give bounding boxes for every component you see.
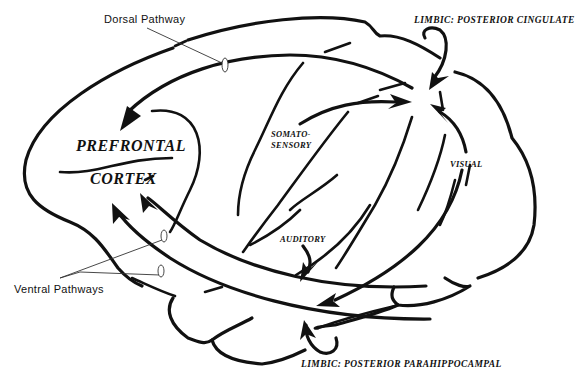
visual-arrow-lower bbox=[335, 170, 462, 300]
brain-outline-dorsal bbox=[188, 18, 440, 58]
limbic-cingulate-arrowhead bbox=[429, 72, 449, 90]
somatosensory-label-line2: SENSORY bbox=[271, 141, 311, 150]
brain-outline-ventral-front bbox=[132, 278, 175, 296]
sulcus-intraparietal bbox=[336, 117, 412, 268]
sulcus-principal bbox=[152, 110, 200, 232]
limbic-posterior-cingulate-label: LIMBIC: POSTERIOR CINGULATE bbox=[414, 16, 575, 26]
ventral-pathway-lower bbox=[118, 212, 430, 319]
dorsal-pathway-marker bbox=[222, 58, 228, 72]
sulcus-dash bbox=[380, 83, 405, 90]
limbic-parahippocampal-hook bbox=[306, 325, 337, 353]
somatosensory-label-line1: SOMATO- bbox=[271, 130, 311, 139]
brain-outline-frontal bbox=[24, 48, 173, 286]
ventral-pathway-lower-arrowhead bbox=[112, 203, 130, 224]
dorsal-pathway-label: Dorsal Pathway bbox=[104, 14, 185, 25]
brain-outline-temporal-lobe bbox=[392, 278, 470, 306]
brain-pathway-diagram: Dorsal Pathway Ventral Pathways PREFRONT… bbox=[0, 0, 576, 380]
brain-outline-and-pathways bbox=[0, 0, 576, 380]
ventral-pathway-marker-lower bbox=[158, 265, 164, 277]
sulcus-temporal-dash bbox=[205, 287, 222, 292]
sulcus-lunate bbox=[418, 135, 445, 210]
dorsal-pathway-arrowhead bbox=[120, 106, 141, 131]
prefrontal-label: PREFRONTAL bbox=[76, 138, 186, 154]
visual-arrowhead bbox=[430, 104, 448, 123]
brain-outline-temporal-pole bbox=[169, 298, 305, 364]
ventral-leader-line-3 bbox=[60, 272, 80, 278]
limbic-posterior-parahippocampal-label: LIMBIC: POSTERIOR PARAHIPPOCAMPAL bbox=[301, 360, 502, 370]
ventral-pathways-label: Ventral Pathways bbox=[14, 284, 104, 295]
visual-label: VISUAL bbox=[450, 160, 483, 169]
brain-outline-temporal-lower bbox=[212, 318, 252, 340]
sulcus-central bbox=[238, 63, 303, 215]
cortex-label: CORTEX bbox=[90, 171, 157, 187]
ventral-leader-line-1 bbox=[60, 240, 162, 278]
sulcus-dash bbox=[325, 43, 350, 52]
ventral-pathway-marker-upper bbox=[161, 230, 167, 242]
auditory-label: AUDITORY bbox=[280, 235, 326, 244]
